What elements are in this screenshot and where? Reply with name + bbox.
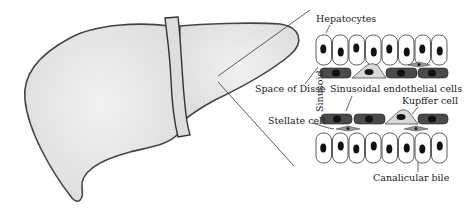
nucleus [437, 142, 443, 151]
nucleus [397, 114, 406, 120]
nucleus [353, 44, 359, 53]
nucleus [386, 45, 392, 54]
label-sinusoid: Sinusoid [314, 71, 325, 113]
hepatocyte-row-top [316, 35, 447, 65]
nucleus [320, 45, 326, 54]
nucleus [338, 142, 344, 151]
nucleus [437, 47, 443, 56]
nucleus [419, 145, 425, 154]
nucleus [353, 145, 359, 154]
label-kupffer-cell: Kupffer cell [402, 95, 458, 106]
endothelial-layer-lower [321, 110, 448, 131]
nucleus [417, 63, 420, 66]
label-sinusoidal-endothelial-cells: Sinusoidal endothelial cells [330, 83, 462, 94]
liver-diagram: Hepatocytes Space of Disse Sinusoid Sinu… [0, 0, 474, 208]
nucleus [397, 70, 405, 77]
liver-left-lobe [179, 23, 299, 122]
nucleus [404, 144, 410, 153]
nucleus [371, 48, 377, 57]
nucleus [365, 69, 374, 75]
pointer-hepatocytes [326, 25, 330, 33]
liver [25, 17, 299, 201]
nucleus [371, 142, 377, 151]
nucleus [333, 116, 341, 123]
nucleus [338, 48, 344, 57]
nucleus [332, 70, 340, 77]
pointer-kupffer [412, 107, 418, 114]
hepatocyte-row-bottom [316, 133, 447, 163]
nucleus [386, 145, 392, 154]
nucleus [404, 48, 410, 57]
pointer-endothelial [346, 96, 352, 111]
nucleus [428, 70, 436, 77]
nucleus [428, 116, 436, 123]
nucleus [365, 116, 373, 123]
label-hepatocytes: Hepatocytes [316, 13, 376, 24]
nucleus [346, 127, 349, 130]
nucleus [419, 45, 425, 54]
label-canalicular-bile: Canalicular bile [373, 172, 450, 183]
nucleus [320, 144, 326, 153]
liver-right-lobe [25, 24, 178, 201]
nucleus [414, 127, 417, 130]
